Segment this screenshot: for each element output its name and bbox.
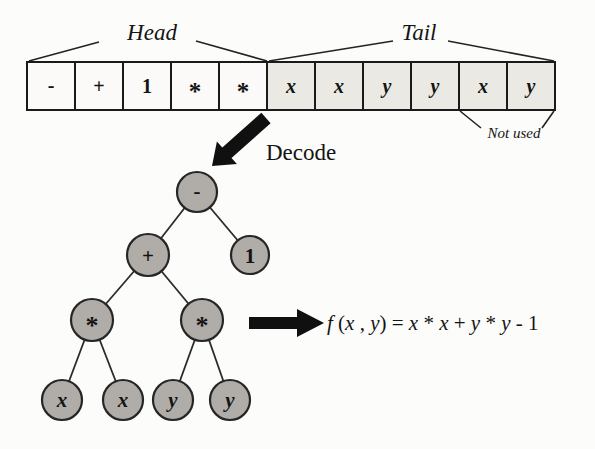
not-used-annotation: Not used: [460, 111, 554, 141]
chromosome-cell: 1: [123, 62, 171, 110]
decoded-formula: f (x , y) = x * x + y * y - 1: [327, 311, 539, 336]
node-label: *: [196, 311, 209, 340]
cell-symbol: x: [285, 75, 296, 97]
formula-part: ) =: [380, 311, 409, 335]
section-brackets: Head Tail: [29, 20, 554, 61]
chromosome-cell: y: [411, 62, 459, 110]
head-bracket-left-line: [29, 42, 99, 61]
cell-symbol: -: [48, 74, 55, 96]
cell-symbol: y: [429, 75, 440, 98]
tree-node: y: [153, 380, 193, 420]
cell-symbol: y: [381, 75, 392, 98]
chromosome-cell: +: [75, 62, 123, 110]
formula-part: (: [333, 311, 345, 335]
cell-symbol: y: [525, 75, 536, 98]
formula-part: 1: [528, 311, 539, 335]
cell-symbol: *: [189, 78, 202, 105]
node-label: -: [194, 179, 201, 203]
chromosome-cell: -: [27, 62, 75, 110]
chromosome-cell: y: [507, 62, 555, 110]
tail-bracket-left-line: [269, 41, 393, 61]
node-label: x: [56, 388, 68, 412]
formula-part: y: [471, 311, 480, 335]
formula-part: *: [418, 311, 439, 335]
chromosome-row: - + 1 * * x x: [27, 62, 555, 110]
tree-node: x: [42, 380, 82, 420]
tree-edges: [62, 192, 250, 400]
tree-node: 1: [231, 236, 269, 274]
cell-symbol: x: [333, 75, 344, 97]
decode-step: Decode: [212, 113, 336, 166]
node-label: x: [117, 388, 129, 412]
formula-part: -: [511, 311, 529, 335]
tree-node: *: [181, 299, 223, 341]
decode-label: Decode: [266, 140, 336, 165]
chromosome-cell: *: [171, 62, 219, 110]
figure-canvas: Head Tail - + 1 * *: [0, 0, 595, 449]
expression-tree: - + 1 * * x x: [42, 172, 269, 420]
formula-part: *: [480, 311, 501, 335]
tree-node: *: [71, 299, 113, 341]
tree-node: y: [210, 380, 250, 420]
head-bracket-right-line: [196, 41, 267, 61]
formula-part: y: [370, 311, 379, 335]
formula-part: y: [501, 311, 510, 335]
tree-node: -: [177, 172, 217, 212]
not-used-label: Not used: [487, 125, 541, 141]
cell-symbol: x: [477, 75, 488, 97]
node-label: *: [86, 311, 99, 340]
tree-node: x: [103, 380, 143, 420]
tail-bracket-right-line: [448, 41, 554, 61]
chromosome-cell: x: [315, 62, 363, 110]
gep-decode-figure: Head Tail - + 1 * *: [0, 0, 595, 449]
result-arrow-icon: [249, 309, 324, 337]
formula-part: ,: [354, 311, 370, 335]
chromosome-cell: y: [363, 62, 411, 110]
not-used-left-line: [460, 111, 481, 128]
cell-symbol: *: [237, 78, 250, 105]
node-label: 1: [245, 244, 256, 268]
tree-node: +: [127, 234, 169, 276]
decode-arrow-icon: [212, 113, 271, 166]
cell-symbol: 1: [142, 75, 152, 97]
formula-part: x: [439, 311, 448, 335]
chromosome-cell: x: [459, 62, 507, 110]
cell-symbol: +: [93, 75, 104, 97]
formula-part: +: [449, 311, 471, 335]
tail-label: Tail: [402, 20, 437, 45]
not-used-right-line: [542, 111, 554, 128]
chromosome-cell: *: [219, 62, 267, 110]
chromosome-cell: x: [267, 62, 315, 110]
node-label: +: [142, 244, 154, 268]
formula-part: x: [409, 311, 418, 335]
head-label: Head: [126, 20, 177, 45]
